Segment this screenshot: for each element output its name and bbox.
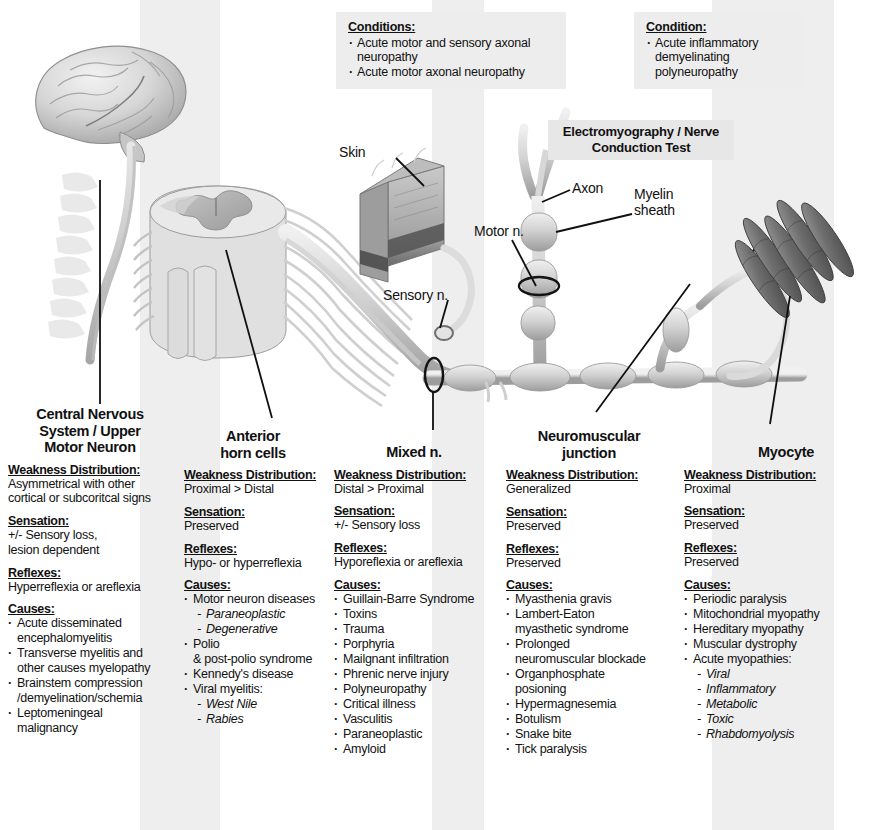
cause-item: Paraneoplastic — [334, 727, 494, 742]
label-sensory-nerve: Sensory n. — [383, 288, 448, 304]
cause-item: Amyloid — [334, 742, 494, 757]
label-motor-nerve: Motor n. — [474, 224, 524, 240]
vertebral-column-art — [48, 172, 98, 338]
section-header: Causes: — [334, 578, 494, 592]
cause-item: Trauma — [334, 622, 494, 637]
section-header: Reflexes: — [506, 542, 672, 556]
section-header: Reflexes: — [334, 541, 494, 555]
cause-item: Motor neuron diseases — [184, 592, 322, 607]
causes-list: Myasthenia gravisLambert-Eaton myastheti… — [506, 592, 672, 757]
section-causes: Causes: Motor neuron diseasesParaneoplas… — [184, 578, 322, 727]
callout-axonal-item-2: Acute motor axonal neuropathy — [348, 65, 556, 80]
section-causes: Causes: Periodic paralysisMitochondrial … — [684, 578, 888, 742]
cause-item: Kennedy's disease — [184, 667, 322, 682]
cause-item: Viral myelitis: — [184, 682, 322, 697]
cause-item: Hypermagnesemia — [506, 697, 672, 712]
cause-item: Organphosphate posioning — [506, 667, 672, 697]
section-value: Preserved — [506, 519, 672, 534]
callout-axonal-conditions: Conditions: Acute motor and sensory axon… — [336, 12, 566, 89]
section-value: Hypo- or hyperreflexia — [184, 556, 322, 571]
cause-item: Periodic paralysis — [684, 592, 888, 607]
causes-list: Acute disseminated encephalomyelitisTran… — [8, 616, 172, 736]
column-title: Neuromuscular junction — [506, 428, 672, 461]
section-header: Sensation: — [8, 514, 172, 528]
callout-axonal-item-1: Acute motor and sensory axonal neuropath… — [348, 36, 556, 65]
section-header: Causes: — [8, 602, 172, 616]
section-header: Reflexes: — [684, 541, 888, 555]
section-causes: Causes: Myasthenia gravisLambert-Eaton m… — [506, 578, 672, 757]
section-header: Sensation: — [506, 505, 672, 519]
label-myelin-sheath: Myelin sheath — [634, 187, 675, 218]
cause-subitem: Degenerative — [184, 622, 322, 637]
column-neuromuscular-junction: Neuromuscular junction Weakness Distribu… — [500, 404, 678, 830]
section-weakness: Weakness Distribution: Distal > Proximal — [334, 468, 494, 497]
section-value: Preserved — [184, 519, 322, 534]
section-value: Distal > Proximal — [334, 482, 494, 497]
cause-item: Muscular dystrophy — [684, 637, 888, 652]
section-value: Generalized — [506, 482, 672, 497]
cause-item: Hereditary myopathy — [684, 622, 888, 637]
callout-demyelinating-header: Condition: — [646, 20, 792, 35]
cause-subitem: Viral — [684, 667, 888, 682]
cause-item: Leptomeningeal malignancy — [8, 706, 172, 736]
causes-list: Periodic paralysisMitochondrial myopathy… — [684, 592, 888, 742]
cause-item: Tick paralysis — [506, 742, 672, 757]
section-reflexes: Reflexes: Hypo- or hyperreflexia — [184, 542, 322, 571]
section-header: Reflexes: — [8, 566, 172, 580]
callout-demyelinating-item-1: Acute inflammatory demyelinating polyneu… — [646, 36, 792, 80]
label-axon: Axon — [572, 181, 603, 197]
section-weakness: Weakness Distribution: Proximal > Distal — [184, 468, 322, 497]
spinal-cord-art — [90, 146, 134, 360]
cause-item: Mailgnant infiltration — [334, 652, 494, 667]
brain-art — [36, 46, 186, 162]
callout-demyelinating-list: Acute inflammatory demyelinating polyneu… — [646, 36, 792, 80]
section-reflexes: Reflexes: Preserved — [684, 541, 888, 570]
cause-item: Acute myopathies: — [684, 652, 888, 667]
section-sensation: Sensation: Preserved — [684, 504, 888, 533]
cause-item: Prolonged neuromuscular blockade — [506, 637, 672, 667]
diagram-canvas: Conditions: Acute motor and sensory axon… — [0, 0, 894, 830]
section-header: Sensation: — [334, 504, 494, 518]
cause-subitem: Rhabdomyolysis — [684, 727, 888, 742]
cause-item: & post-polio syndrome — [184, 652, 322, 667]
section-reflexes: Reflexes: Hyperreflexia or areflexia — [8, 566, 172, 595]
section-value: Preserved — [506, 556, 672, 571]
section-reflexes: Reflexes: Preserved — [506, 542, 672, 571]
peripheral-nerve-trunk-art — [425, 248, 800, 402]
cause-item: Myasthenia gravis — [506, 592, 672, 607]
section-causes: Causes: Acute disseminated encephalomyel… — [8, 602, 172, 736]
cause-item: Vasculitis — [334, 712, 494, 727]
skin-block-art — [360, 148, 444, 282]
cause-item: Toxins — [334, 607, 494, 622]
section-sensation: Sensation: +/- Sensory loss — [334, 504, 494, 533]
section-header: Causes: — [506, 578, 672, 592]
section-header: Sensation: — [184, 505, 322, 519]
cause-item: Botulism — [506, 712, 672, 727]
column-title: Mixed n. — [334, 444, 494, 461]
label-skin: Skin — [339, 145, 365, 161]
section-header: Weakness Distribution: — [334, 468, 494, 482]
section-header: Causes: — [184, 578, 322, 592]
section-value: Asymmetrical with other cortical or subc… — [8, 477, 172, 507]
section-value: Preserved — [684, 518, 888, 533]
cause-subitem: Toxic — [684, 712, 888, 727]
section-header: Weakness Distribution: — [8, 463, 172, 477]
section-weakness: Weakness Distribution: Generalized — [506, 468, 672, 497]
cause-item: Phrenic nerve injury — [334, 667, 494, 682]
cause-item: Polio — [184, 637, 322, 652]
section-value: Hyperreflexia or areflexia — [8, 580, 172, 595]
section-sensation: Sensation: Preserved — [184, 505, 322, 534]
column-central-nervous-system: Central Nervous System / Upper Motor Neu… — [0, 404, 178, 830]
section-header: Causes: — [684, 578, 888, 592]
causes-list: Guillain-Barre SyndromeToxinsTraumaPorph… — [334, 592, 494, 757]
section-header: Weakness Distribution: — [684, 468, 888, 482]
section-value: +/- Sensory loss, lesion dependent — [8, 528, 172, 558]
section-sensation: Sensation: Preserved — [506, 505, 672, 534]
cause-item: Mitochondrial myopathy — [684, 607, 888, 622]
cause-item: Acute disseminated encephalomyelitis — [8, 616, 172, 646]
section-value: Proximal — [684, 482, 888, 497]
leader-myelin — [556, 214, 632, 232]
cause-item: Transverse myelitis and other causes mye… — [8, 646, 172, 676]
leader-sensory-nerve — [440, 300, 448, 328]
column-anterior-horn-cells: Anterior horn cells Weakness Distributio… — [178, 404, 328, 830]
